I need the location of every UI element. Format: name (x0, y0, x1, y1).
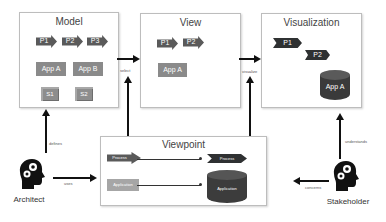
viewpoint-title: Viewpoint (101, 139, 266, 150)
view-app-a: App A (158, 63, 187, 77)
application-mapping-dot (199, 183, 202, 186)
model-app-b: App B (73, 62, 103, 76)
model-process-p2: P2 (62, 35, 83, 48)
edge-label-understands: understands (345, 139, 367, 144)
model-to-view-arrow (117, 58, 134, 60)
architect-head-gears-icon (18, 158, 48, 190)
architect-label: Architect (4, 195, 54, 204)
arrowhead-left (293, 177, 300, 185)
viewpoint-to-visualize-line (249, 82, 251, 136)
visualization-process-p2: P2 (305, 50, 330, 60)
viewpoint-process-target: Process (207, 154, 247, 163)
stakeholder-concerns-arrow (299, 180, 329, 182)
view-title: View (141, 17, 240, 28)
model-s1-cube: S1 (41, 87, 59, 101)
arrowhead-up (246, 76, 254, 83)
arrowhead-up (42, 109, 50, 116)
application-mapping-line (137, 185, 201, 186)
viewpoint-process-source: Process (107, 152, 141, 164)
visualization-title: Visualization (262, 17, 361, 28)
architect-uses-arrow (53, 177, 91, 179)
arrowhead-right (133, 55, 140, 63)
arrowhead-up (124, 76, 132, 83)
viewpoint-application-target: Application (207, 170, 247, 203)
edge-label-visualize: visualize (242, 69, 257, 74)
stakeholder-label: Stakeholder (320, 197, 376, 206)
viewpoint-to-select-line (127, 82, 129, 136)
arrowhead-up (336, 113, 344, 120)
arrowhead-right (254, 55, 261, 63)
process-mapping-line (137, 159, 201, 160)
view-box: View P1 P2 App A (140, 13, 241, 108)
view-process-p2: P2 (183, 36, 204, 49)
edge-label-select: select (120, 68, 130, 73)
visualization-box: Visualization P1 P2 App A (261, 13, 362, 108)
view-to-visualization-arrow (239, 58, 255, 60)
database-label: Application (207, 186, 247, 191)
view-process-p1: P1 (157, 37, 178, 50)
stakeholder-head-gears-icon (332, 160, 362, 192)
edge-label-defines: defines (49, 141, 62, 146)
model-process-p1: P1 (36, 35, 57, 48)
edge-label-concerns: concerns (305, 185, 321, 190)
model-app-a: App A (36, 62, 66, 76)
architect-defines-arrow (45, 115, 47, 153)
arrowhead-right (90, 174, 97, 182)
model-title: Model (20, 16, 118, 27)
database-label: App A (320, 83, 350, 90)
database-top (320, 70, 350, 80)
model-box: Model P1 P2 P3 App A App B S1 S2 (19, 12, 119, 108)
process-mapping-dot (199, 157, 202, 160)
viewpoint-application-source: Application (107, 179, 139, 191)
database-top (207, 170, 247, 180)
edge-label-uses: uses (64, 181, 72, 186)
visualization-database-app-a: App A (320, 70, 350, 100)
model-s2-cube: S2 (75, 87, 93, 101)
viewpoint-box: Viewpoint Process Process Application Ap… (100, 136, 267, 206)
visualization-process-p1: P1 (273, 38, 302, 48)
stakeholder-understands-arrow (339, 119, 341, 159)
model-process-p3: P3 (87, 35, 108, 48)
